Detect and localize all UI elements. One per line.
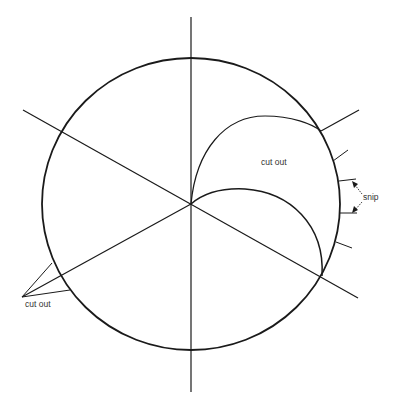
upper-right-radial [321,110,359,131]
snip-tick-4 [336,242,352,248]
snip-arrow-down-head [352,206,358,213]
snip-arrow-up-shaft [355,185,362,194]
cut-diagram: cut out snip cut out [0,0,395,407]
snip-tick-1 [333,150,348,161]
lower-cutout-arc [191,189,322,276]
snip-tick-2 [339,179,356,181]
snip-label: snip [363,192,379,202]
pointer-line-upper [22,263,52,297]
cut-out-inner-label: cut out [261,157,287,167]
diagonal-line-2-lower [22,204,191,297]
cut-out-outer-label: cut out [25,299,51,309]
snip-arrow-up-head [352,181,358,188]
